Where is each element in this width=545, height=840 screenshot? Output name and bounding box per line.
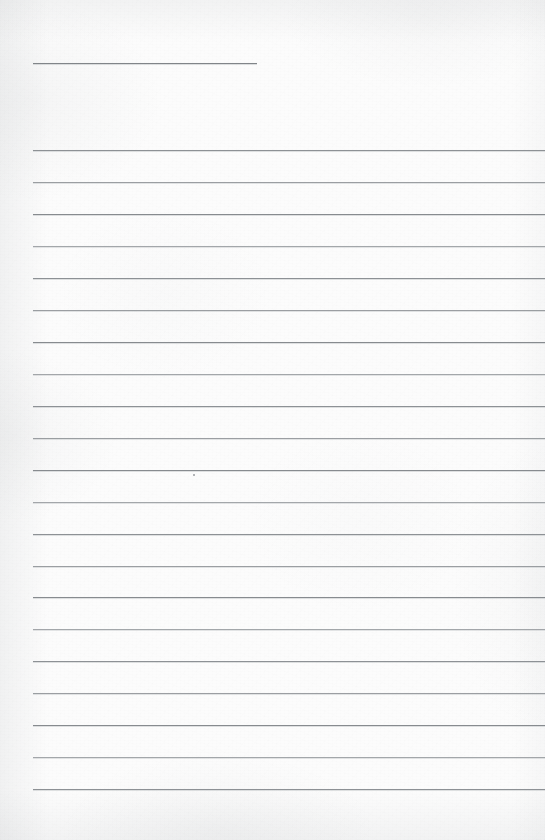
write-line-3[interactable]: [33, 186, 545, 214]
write-line-9[interactable]: [33, 378, 545, 406]
ruled-line: [33, 629, 545, 630]
write-line-4[interactable]: [33, 218, 545, 246]
write-line-14[interactable]: [33, 538, 545, 566]
ruled-line: [33, 789, 545, 790]
ruled-line: [33, 214, 545, 215]
write-line-15[interactable]: [33, 569, 545, 597]
write-line-1[interactable]: [33, 122, 545, 150]
heading-rule: [33, 63, 257, 64]
ruled-line: [33, 406, 545, 407]
ruled-line: [33, 246, 545, 247]
write-line-20[interactable]: [33, 729, 545, 757]
ruled-line: [33, 374, 545, 375]
write-line-7[interactable]: [33, 314, 545, 342]
paper-speck-icon: [193, 474, 195, 476]
ruled-line: [33, 725, 545, 726]
write-line-6[interactable]: [33, 282, 545, 310]
ruled-line: [33, 342, 545, 343]
write-line-11[interactable]: [33, 442, 545, 470]
ruled-line: [33, 661, 545, 662]
ruled-line: [33, 310, 545, 311]
write-line-19[interactable]: [33, 697, 545, 725]
ruled-line: [33, 278, 545, 279]
write-line-17[interactable]: [33, 633, 545, 661]
ruled-line: [33, 438, 545, 439]
ruled-line: [33, 757, 545, 758]
ruled-line: [33, 150, 545, 151]
ruled-line: [33, 693, 545, 694]
ruled-line: [33, 534, 545, 535]
write-line-16[interactable]: [33, 601, 545, 629]
ruled-line: [33, 182, 545, 183]
ruled-line: [33, 470, 545, 471]
write-line-18[interactable]: [33, 665, 545, 693]
ruled-line: [33, 597, 545, 598]
write-line-5[interactable]: [33, 250, 545, 278]
write-line-12[interactable]: [33, 474, 545, 502]
write-line-8[interactable]: [33, 346, 545, 374]
scanned-paper-page: [0, 0, 545, 840]
ruled-line: [33, 566, 545, 567]
ruled-line: [33, 502, 545, 503]
write-line-21[interactable]: [33, 761, 545, 789]
write-line-10[interactable]: [33, 410, 545, 438]
heading-write-area[interactable]: [33, 41, 257, 63]
write-line-13[interactable]: [33, 506, 545, 534]
write-line-2[interactable]: [33, 154, 545, 182]
